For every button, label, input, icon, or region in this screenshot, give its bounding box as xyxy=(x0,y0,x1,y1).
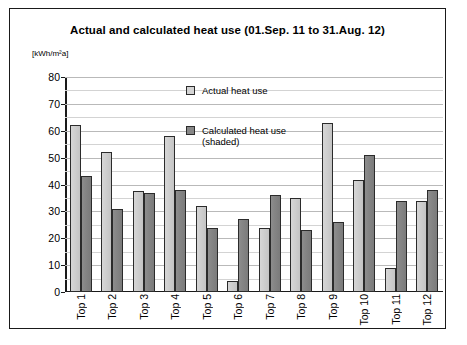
bar-group xyxy=(317,77,349,292)
bar-calculated xyxy=(238,219,249,292)
bar-actual xyxy=(70,125,81,292)
y-axis-tick-label: 50 xyxy=(48,152,60,164)
x-axis-tick-label: Top 7 xyxy=(264,294,276,320)
bar-calculated xyxy=(175,190,186,292)
bar-calculated xyxy=(112,209,123,292)
bar-actual xyxy=(385,268,396,292)
y-axis-tick-label: 10 xyxy=(48,259,60,271)
x-axis-tick-label: Top 9 xyxy=(327,294,339,320)
y-axis-tick-label: 40 xyxy=(48,179,60,191)
y-axis-tick-label: 70 xyxy=(48,98,60,110)
bar-group xyxy=(223,77,255,292)
bar-calculated xyxy=(427,190,438,292)
bar-actual xyxy=(227,281,238,292)
legend-label-calculated-line1: Calculated heat use xyxy=(202,125,286,136)
y-axis-tick-label: 80 xyxy=(48,71,60,83)
legend-item-actual: Actual heat use xyxy=(186,85,268,96)
bar-actual xyxy=(353,180,364,292)
bar-actual xyxy=(259,228,270,293)
bar-calculated xyxy=(333,222,344,292)
legend-item-calculated: Calculated heat use(shaded) xyxy=(186,125,286,147)
bar-group xyxy=(349,77,381,292)
x-axis-tick-label: Top 10 xyxy=(358,294,370,326)
legend-swatch-actual-icon xyxy=(186,86,195,95)
y-axis-tick-label: 30 xyxy=(48,205,60,217)
bar-calculated xyxy=(270,195,281,292)
x-axis-tick-label: Top 4 xyxy=(169,294,181,320)
legend-label-calculated-line2: (shaded) xyxy=(202,136,240,147)
x-axis-tick-label: Top 11 xyxy=(390,294,402,325)
bar-calculated xyxy=(81,176,92,292)
bar-calculated xyxy=(207,228,218,293)
bar-calculated xyxy=(144,193,155,292)
x-axis-tick-label: Top 8 xyxy=(295,294,307,320)
bar-group xyxy=(380,77,412,292)
x-axis-tick-label: Top 5 xyxy=(201,294,213,320)
bar-calculated xyxy=(301,230,312,292)
x-axis-tick-label: Top 12 xyxy=(421,294,433,326)
bar-actual xyxy=(164,136,175,292)
x-axis-tick-label: Top 3 xyxy=(138,294,150,320)
bar-group xyxy=(65,77,97,292)
bar-group xyxy=(128,77,160,292)
bar-actual xyxy=(290,198,301,292)
legend-swatch-calculated-icon xyxy=(186,126,195,135)
bar-actual xyxy=(196,206,207,292)
y-axis-unit-label: [kWh/m²a] xyxy=(32,49,68,58)
legend-label-calculated: Calculated heat use(shaded) xyxy=(202,125,286,147)
bar-group xyxy=(191,77,223,292)
bar-group xyxy=(412,77,444,292)
bar-actual xyxy=(416,201,427,292)
chart-title: Actual and calculated heat use (01.Sep. … xyxy=(10,24,445,36)
y-axis-tick-label: 60 xyxy=(48,125,60,137)
bar-calculated xyxy=(364,155,375,292)
bar-actual xyxy=(101,152,112,292)
y-axis-tick-label: 0 xyxy=(54,286,60,298)
bar-group xyxy=(160,77,192,292)
bar-series-layer xyxy=(65,77,443,292)
y-axis-tick-label: 20 xyxy=(48,232,60,244)
y-axis-tick-mark xyxy=(61,292,65,293)
x-axis-tick-label: Top 2 xyxy=(106,294,118,320)
bar-calculated xyxy=(396,201,407,292)
x-axis-tick-label: Top 1 xyxy=(75,294,87,320)
legend-label-actual: Actual heat use xyxy=(202,85,268,96)
plot-area: 01020304050607080 xyxy=(65,77,443,292)
bar-group xyxy=(286,77,318,292)
bar-group xyxy=(254,77,286,292)
x-axis-labels: Top 1Top 2Top 3Top 4Top 5Top 6Top 7Top 8… xyxy=(65,294,443,342)
chart-frame: Actual and calculated heat use (01.Sep. … xyxy=(9,8,446,329)
x-axis-tick-label: Top 6 xyxy=(232,294,244,320)
bar-actual xyxy=(322,123,333,292)
bar-group xyxy=(97,77,129,292)
bar-actual xyxy=(133,191,144,292)
